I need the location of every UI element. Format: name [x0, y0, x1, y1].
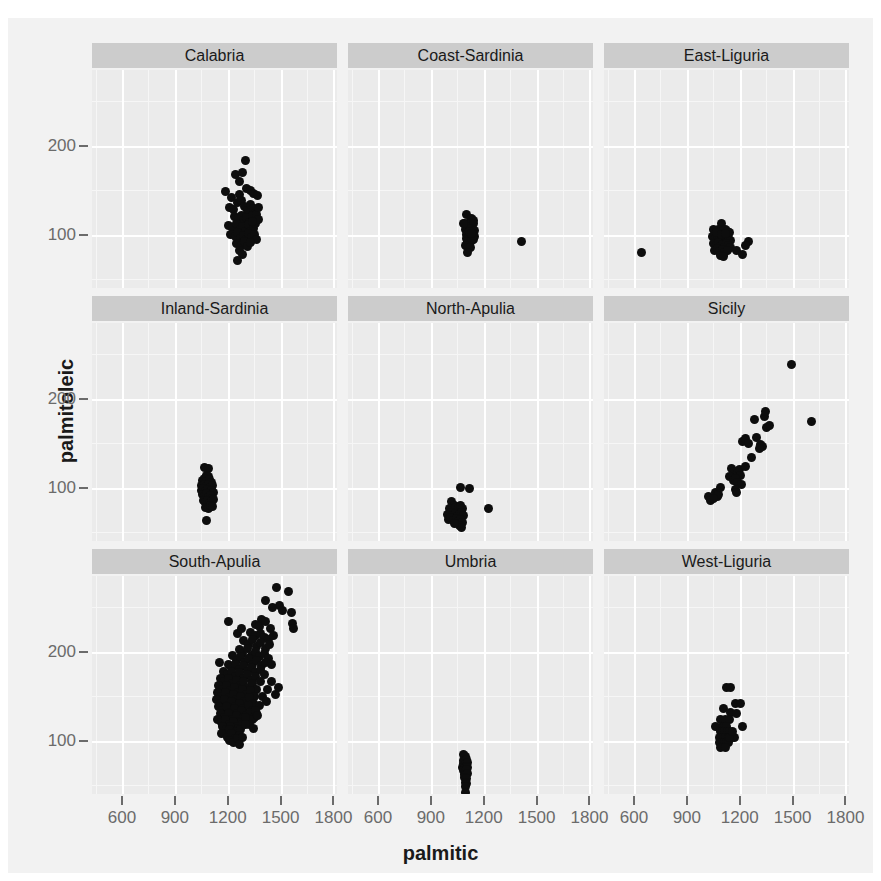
data-point — [289, 624, 298, 633]
facet-strip: South-Apulia — [92, 549, 337, 574]
x-tick-mark — [227, 796, 229, 805]
data-point — [738, 722, 747, 731]
data-point — [278, 606, 287, 615]
gridline-major-vertical — [333, 323, 335, 541]
gridline-minor-horizontal — [92, 101, 337, 102]
facet-strip-label: North-Apulia — [426, 301, 515, 317]
data-point — [253, 711, 262, 720]
plot-panel — [92, 70, 337, 288]
gridline-major-vertical — [175, 70, 177, 288]
x-tick-label: 1500 — [774, 808, 812, 828]
y-tick-label: 100 — [48, 731, 76, 751]
facet-strip: North-Apulia — [348, 296, 593, 321]
gridline-major-vertical — [228, 70, 230, 288]
data-point — [726, 683, 735, 692]
gridline-major-vertical — [589, 323, 591, 541]
gridline-minor-horizontal — [604, 785, 849, 786]
gridline-minor-vertical — [404, 70, 405, 288]
gridline-minor-vertical — [254, 70, 255, 288]
gridline-minor-vertical — [404, 323, 405, 541]
data-point — [287, 608, 296, 617]
x-tick-label: 1200 — [209, 808, 247, 828]
x-tick-label: 1800 — [315, 808, 353, 828]
gridline-minor-vertical — [201, 576, 202, 794]
data-point — [284, 587, 293, 596]
gridline-minor-vertical — [766, 576, 767, 794]
gridline-major-horizontal — [92, 235, 337, 237]
scatter-plot-matrix: palmitoleic palmitic Calabria100200Coast… — [0, 0, 881, 881]
gridline-minor-horizontal — [92, 532, 337, 533]
x-tick-label: 600 — [364, 808, 392, 828]
facet-north-apulia: North-Apulia — [348, 296, 593, 541]
data-point — [719, 252, 728, 261]
facet-strip-label: Sicily — [708, 301, 745, 317]
data-point — [249, 724, 258, 733]
data-point — [484, 504, 493, 513]
x-tick-mark — [377, 796, 379, 805]
data-point — [248, 217, 257, 226]
gridline-major-horizontal — [348, 741, 593, 743]
gridline-minor-vertical — [713, 576, 714, 794]
data-point — [224, 617, 233, 626]
facet-strip-label: Inland-Sardinia — [161, 301, 269, 317]
gridline-minor-vertical — [766, 70, 767, 288]
data-point — [765, 421, 774, 430]
gridline-minor-vertical — [660, 576, 661, 794]
gridline-major-vertical — [431, 323, 433, 541]
gridline-minor-vertical — [254, 323, 255, 541]
x-tick-mark — [536, 796, 538, 805]
gridline-minor-vertical — [510, 576, 511, 794]
y-tick-label: 200 — [48, 389, 76, 409]
gridline-minor-vertical — [352, 323, 353, 541]
gridline-major-horizontal — [604, 652, 849, 654]
gridline-minor-horizontal — [348, 607, 593, 608]
gridline-minor-vertical — [352, 70, 353, 288]
y-tick-mark — [79, 145, 88, 147]
gridline-major-vertical — [378, 70, 380, 288]
data-point — [253, 191, 262, 200]
gridline-minor-horizontal — [92, 607, 337, 608]
y-tick-mark — [79, 234, 88, 236]
facet-row: South-Apulia100200600900120015001800Umbr… — [92, 549, 849, 794]
y-tick-label: 100 — [48, 225, 76, 245]
data-point — [254, 203, 263, 212]
data-point — [741, 241, 750, 250]
gridline-minor-horizontal — [604, 279, 849, 280]
gridline-minor-horizontal — [348, 443, 593, 444]
x-tick-label: 1500 — [518, 808, 556, 828]
y-axis: 100200 — [0, 70, 92, 288]
x-tick-mark — [483, 796, 485, 805]
y-tick-label: 200 — [48, 136, 76, 156]
facet-strip-label: East-Liguria — [684, 48, 769, 64]
facet-strip-label: West-Liguria — [682, 554, 772, 570]
gridline-major-horizontal — [604, 488, 849, 490]
x-tick-mark — [174, 796, 176, 805]
gridline-minor-horizontal — [348, 696, 593, 697]
gridline-major-horizontal — [92, 741, 337, 743]
x-tick-mark — [121, 796, 123, 805]
facet-calabria: Calabria100200 — [92, 43, 337, 288]
data-point — [202, 516, 211, 525]
data-point — [787, 360, 796, 369]
plot-panel — [348, 70, 593, 288]
plot-panel — [604, 70, 849, 288]
gridline-minor-vertical — [148, 323, 149, 541]
gridline-minor-horizontal — [348, 190, 593, 191]
gridline-major-horizontal — [348, 652, 593, 654]
facet-strip-label: Calabria — [185, 48, 245, 64]
gridline-minor-horizontal — [604, 607, 849, 608]
gridline-major-vertical — [281, 70, 283, 288]
data-point — [755, 444, 764, 453]
gridline-minor-horizontal — [604, 190, 849, 191]
data-point — [463, 248, 472, 257]
facet-strip: East-Liguria — [604, 43, 849, 68]
gridline-minor-horizontal — [604, 443, 849, 444]
gridline-major-vertical — [175, 323, 177, 541]
data-point — [215, 658, 224, 667]
gridline-minor-horizontal — [92, 190, 337, 191]
x-axis: 600900120015001800 — [604, 794, 849, 834]
gridline-minor-vertical — [148, 576, 149, 794]
gridline-minor-vertical — [766, 323, 767, 541]
gridline-major-vertical — [431, 576, 433, 794]
gridline-minor-vertical — [563, 323, 564, 541]
